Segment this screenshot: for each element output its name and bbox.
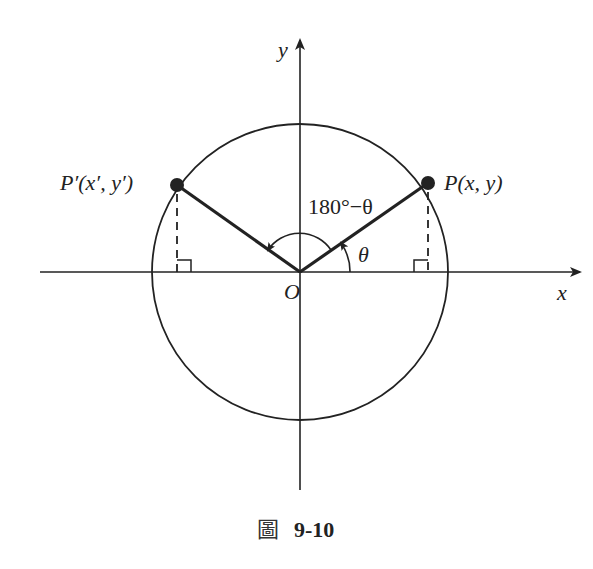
point-p-label: P(x, y) xyxy=(443,170,503,195)
caption-number: 9-10 xyxy=(294,517,334,542)
caption-prefix: 圖 xyxy=(257,517,279,542)
point-p-prime xyxy=(170,178,184,192)
point-p xyxy=(421,176,435,190)
origin-label: O xyxy=(284,279,300,304)
x-axis-label: x xyxy=(556,280,567,305)
arc-theta xyxy=(341,243,350,272)
supplement-angle-label: 180°−θ xyxy=(308,194,373,219)
point-p-prime-label: P′(x′, y′) xyxy=(59,170,133,195)
theta-label: θ xyxy=(358,242,369,267)
right-angle-mark-p xyxy=(414,260,428,272)
segment-op-prime xyxy=(177,185,300,272)
right-angle-mark-p-prime xyxy=(177,260,191,272)
unit-circle-diagram: y x O P(x, y) P′(x′, y′) θ 180°−θ 圖 9-10 xyxy=(0,0,593,569)
y-axis-label: y xyxy=(276,37,288,62)
